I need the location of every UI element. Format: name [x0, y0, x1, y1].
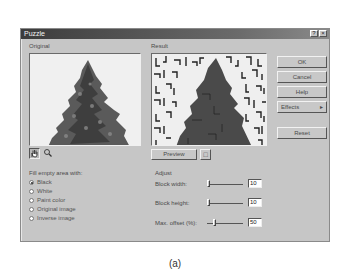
fill-empty-label: Fill empty area with:: [29, 170, 82, 176]
result-preview[interactable]: [151, 53, 267, 146]
ok-button[interactable]: OK: [277, 56, 327, 68]
block-height-slider[interactable]: [207, 203, 243, 204]
cancel-button[interactable]: Cancel: [277, 71, 327, 83]
preview-toggle-icon[interactable]: □: [200, 149, 211, 160]
title-bar[interactable]: Puzzle ? ×: [21, 29, 329, 39]
help-button[interactable]: Help: [277, 86, 327, 98]
submenu-arrow-icon: ▸: [320, 102, 323, 113]
effects-label: Effects: [281, 104, 299, 110]
reset-button[interactable]: Reset: [277, 127, 327, 139]
block-height-input[interactable]: 10: [248, 198, 262, 207]
block-width-slider[interactable]: [207, 184, 243, 185]
block-height-slider-thumb[interactable]: [207, 199, 210, 206]
preview-button[interactable]: Preview: [151, 149, 197, 160]
effects-button[interactable]: Effects ▸: [277, 101, 327, 113]
radio-button-icon[interactable]: [29, 180, 34, 185]
help-icon[interactable]: ?: [310, 30, 318, 37]
result-label: Result: [151, 43, 168, 49]
max-offset-slider-thumb[interactable]: [213, 219, 216, 226]
max-offset-label: Max. offset (%):: [155, 220, 197, 226]
original-preview[interactable]: [29, 53, 141, 146]
puzzle-result-image: [152, 54, 267, 146]
block-width-input[interactable]: 10: [248, 179, 262, 188]
radio-button-icon[interactable]: [29, 189, 34, 194]
radio-button-icon[interactable]: [29, 216, 34, 221]
adjust-label: Adjust: [155, 170, 172, 176]
radio-original-image[interactable]: Original image: [29, 206, 76, 214]
tree-image: [30, 54, 141, 146]
figure-caption: (a): [0, 258, 350, 269]
hand-tool-icon[interactable]: [29, 148, 40, 159]
zoom-tool-icon[interactable]: [42, 148, 53, 159]
block-width-slider-thumb[interactable]: [207, 180, 210, 187]
radio-button-icon[interactable]: [29, 207, 34, 212]
block-height-label: Block height:: [155, 200, 189, 206]
radio-inverse-image[interactable]: Inverse image: [29, 215, 75, 223]
radio-button-icon[interactable]: [29, 198, 34, 203]
dialog-title: Puzzle: [24, 29, 45, 39]
block-width-label: Block width:: [155, 181, 187, 187]
radio-black[interactable]: Black: [29, 179, 52, 187]
radio-paint-color[interactable]: Paint color: [29, 197, 65, 205]
original-label: Original: [29, 43, 50, 49]
max-offset-input[interactable]: 50: [248, 218, 262, 227]
puzzle-dialog: Puzzle ? × Original Result: [20, 28, 330, 242]
radio-white[interactable]: White: [29, 188, 52, 196]
close-icon[interactable]: ×: [319, 30, 327, 37]
